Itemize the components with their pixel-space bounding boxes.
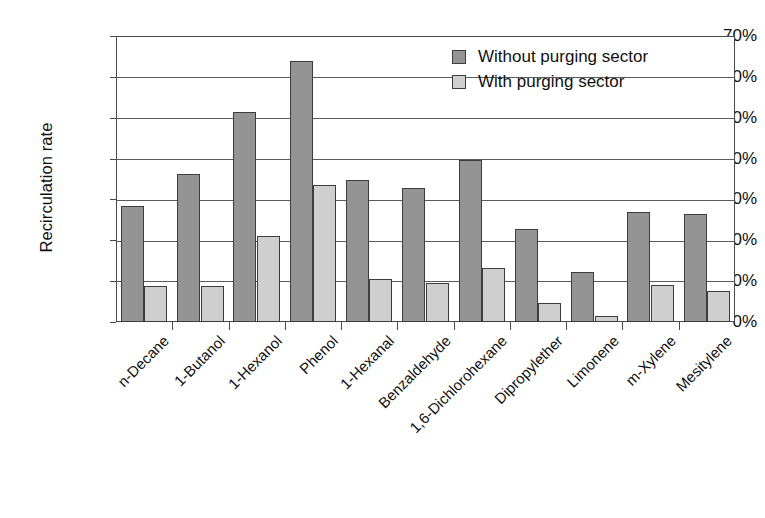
- bar-group: [116, 36, 172, 322]
- x-axis-tick-label-text: 1-Hexanol: [224, 332, 284, 392]
- x-axis-tick-label-text: 1-Hexanal: [337, 332, 397, 392]
- legend-item-without-purging-sector: Without purging sector: [452, 44, 648, 69]
- x-axis-tick-label-text: 1,6-Dichlorohexane: [406, 332, 510, 436]
- bar-with-purging-sector: [595, 316, 618, 322]
- x-axis-tick-label-text: Limonene: [564, 332, 623, 391]
- chart-legend: Without purging sector With purging sect…: [440, 36, 658, 102]
- legend-label: With purging sector: [478, 73, 624, 90]
- legend-item-with-purging-sector: With purging sector: [452, 69, 648, 94]
- y-axis-tick-mark: [110, 322, 116, 323]
- bar-without-purging-sector: [233, 112, 256, 322]
- bar-without-purging-sector: [121, 206, 144, 322]
- bar-group: [341, 36, 397, 322]
- y-axis-title: Recirculation rate: [37, 78, 56, 298]
- legend-label: Without purging sector: [478, 48, 648, 65]
- bar-chart: Recirculation rate 70%60%50%40%30%20%10%…: [0, 0, 765, 518]
- bar-group: [172, 36, 228, 322]
- bar-without-purging-sector: [290, 61, 313, 322]
- bar-without-purging-sector: [346, 180, 369, 322]
- x-axis-tick-label-text: Phenol: [296, 332, 341, 377]
- x-axis-tick-label-text: 1-Butanol: [171, 332, 228, 389]
- bar-with-purging-sector: [144, 286, 167, 322]
- x-axis-tick-label-text: m-Xylene: [622, 332, 679, 389]
- bar-group: [285, 36, 341, 322]
- legend-swatch-icon-dark: [452, 50, 466, 64]
- bar-group: [229, 36, 285, 322]
- bar-group: [679, 36, 735, 322]
- legend-swatch-icon-light: [452, 75, 466, 89]
- bar-with-purging-sector: [369, 279, 392, 322]
- x-axis-tick-label-text: n-Decane: [114, 332, 172, 390]
